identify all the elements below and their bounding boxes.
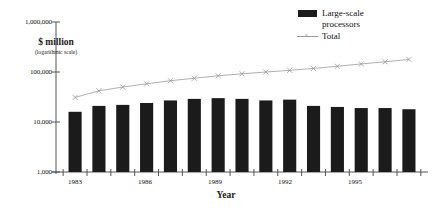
bar-1991	[259, 100, 272, 172]
bar-1986	[140, 103, 153, 172]
bar-1989	[212, 98, 225, 172]
total-line-path	[75, 59, 409, 97]
chart-container: 1,000,000 100,000 10,000 1,000 $ million…	[0, 0, 433, 212]
bar-1984	[92, 106, 105, 172]
bar-1983	[69, 112, 82, 172]
bar-1997	[402, 109, 415, 172]
bar-1985	[116, 105, 129, 172]
bar-1994	[331, 107, 344, 172]
bars-group	[69, 98, 416, 172]
plot-area	[0, 0, 433, 212]
bar-1992	[283, 100, 296, 172]
bar-1995	[355, 108, 368, 172]
total-line-group	[72, 57, 411, 100]
bar-1993	[307, 106, 320, 172]
bar-1996	[379, 108, 392, 172]
bar-1988	[188, 99, 201, 172]
bar-1987	[164, 100, 177, 172]
bar-1990	[235, 99, 248, 172]
total-marker-1983	[72, 95, 77, 100]
